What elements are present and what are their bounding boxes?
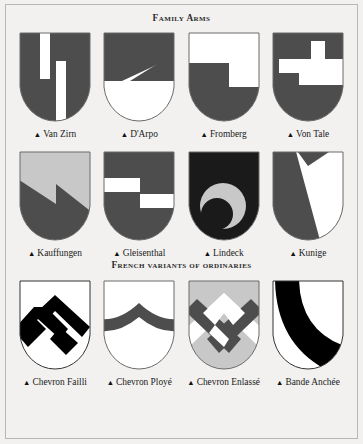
- shield-cell-chevron-enlasse[interactable]: ▲ Chevron Enlassé: [185, 277, 263, 387]
- triangle-bullet-icon: ▲: [290, 250, 297, 257]
- shield-cell-bande-anchee[interactable]: ▲ Bande Anchée: [269, 277, 347, 387]
- triangle-bullet-icon: ▲: [287, 131, 294, 138]
- shield-label: ▲ Gleisenthal: [113, 248, 165, 258]
- shield-name: Kunige: [299, 248, 327, 258]
- shield-cell-chevron-ploye[interactable]: ▲ Chevron Ployé: [100, 277, 178, 387]
- triangle-bullet-icon: ▲: [28, 250, 35, 257]
- shield-cell-van-zirn[interactable]: ▲ Van Zirn: [16, 29, 94, 139]
- shield-gleisenthal: [100, 148, 178, 244]
- shield-von-tale: [269, 29, 347, 125]
- shield-name: Bande Anchée: [285, 377, 339, 387]
- shield-cell-kunige[interactable]: ▲ Kunige: [269, 148, 347, 258]
- shield-label: ▲ Lindeck: [204, 248, 244, 258]
- shield-cell-gleisenthal[interactable]: ▲ Gleisenthal: [100, 148, 178, 258]
- shield-name: Von Tale: [296, 129, 329, 139]
- shield-name: Chevron Ployé: [116, 377, 172, 387]
- shield-row-1: ▲ Van Zirn ▲ D'Arpo: [7, 29, 356, 139]
- shield-name: Chevron Failli: [32, 377, 86, 387]
- shield-chevron-ploye: [100, 277, 178, 373]
- shield-name: Gleisenthal: [123, 248, 166, 258]
- shield-name: Van Zirn: [43, 129, 76, 139]
- shield-van-zirn: [16, 29, 94, 125]
- triangle-bullet-icon: ▲: [34, 131, 41, 138]
- shield-cell-lindeck[interactable]: ▲ Lindeck: [185, 148, 263, 258]
- shield-name: Kauffungen: [37, 248, 82, 258]
- triangle-bullet-icon: ▲: [187, 379, 194, 386]
- shield-label: ▲ Van Zirn: [34, 129, 76, 139]
- shield-label: ▲ Chevron Failli: [23, 377, 87, 387]
- section-heading-french-variants: French variants of ordinaries: [7, 260, 356, 270]
- shield-cell-fromberg[interactable]: ▲ Fromberg: [185, 29, 263, 139]
- triangle-bullet-icon: ▲: [121, 131, 128, 138]
- shield-name: Lindeck: [213, 248, 244, 258]
- triangle-bullet-icon: ▲: [23, 379, 30, 386]
- shield-name: Chevron Enlassé: [197, 377, 260, 387]
- shield-label: ▲ Fromberg: [201, 129, 247, 139]
- shield-bande-anchee: [269, 277, 347, 373]
- shield-cell-kauffungen[interactable]: ▲ Kauffungen: [16, 148, 94, 258]
- shield-chevron-enlasse: [185, 277, 263, 373]
- shield-label: ▲ Von Tale: [287, 129, 329, 139]
- shield-name: Fromberg: [210, 129, 247, 139]
- shield-cell-darpo[interactable]: ▲ D'Arpo: [100, 29, 178, 139]
- shield-name: D'Arpo: [130, 129, 158, 139]
- shield-label: ▲ Kunige: [290, 248, 327, 258]
- shield-label: ▲ D'Arpo: [121, 129, 158, 139]
- shield-row-3: ▲ Chevron Failli ▲ Chevron Ployé: [7, 277, 356, 387]
- shield-row-2: ▲ Kauffungen ▲ Gleisenthal: [7, 148, 356, 258]
- shield-kauffungen: [16, 148, 94, 244]
- triangle-bullet-icon: ▲: [201, 131, 208, 138]
- heraldry-page: Family Arms ▲ Van Zirn: [0, 0, 363, 444]
- triangle-bullet-icon: ▲: [113, 250, 120, 257]
- shield-darpo: [100, 29, 178, 125]
- shield-fromberg: [185, 29, 263, 125]
- shield-chevron-failli: [16, 277, 94, 373]
- shield-cell-von-tale[interactable]: ▲ Von Tale: [269, 29, 347, 139]
- shield-label: ▲ Chevron Enlassé: [187, 377, 260, 387]
- triangle-bullet-icon: ▲: [276, 379, 283, 386]
- triangle-bullet-icon: ▲: [107, 379, 114, 386]
- shield-label: ▲ Kauffungen: [28, 248, 82, 258]
- shield-cell-chevron-failli[interactable]: ▲ Chevron Failli: [16, 277, 94, 387]
- shield-label: ▲ Bande Anchée: [276, 377, 340, 387]
- section-heading-family-arms: Family Arms: [7, 13, 356, 23]
- shield-kunige: [269, 148, 347, 244]
- triangle-bullet-icon: ▲: [204, 250, 211, 257]
- shield-lindeck: [185, 148, 263, 244]
- shield-label: ▲ Chevron Ployé: [107, 377, 172, 387]
